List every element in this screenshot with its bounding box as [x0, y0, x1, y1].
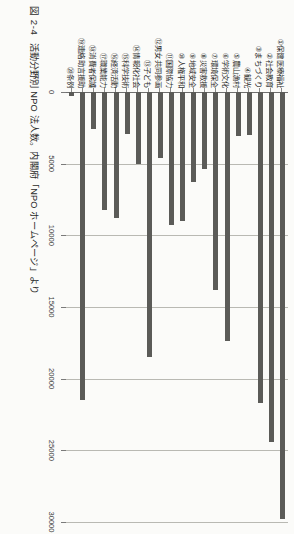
category-label: ⑩人権平和 — [177, 53, 184, 88]
category-label: ⑥学術文化 — [221, 53, 228, 88]
category-axis-labels: ①保健医療福祉②社会教育③まちづくり④観光⑤農山漁村⑥学術文化⑦環境保全⑧災害救… — [66, 6, 288, 90]
bar — [202, 92, 207, 169]
bar — [102, 92, 107, 210]
bar — [91, 92, 96, 129]
axis-tick-label: 0 — [47, 90, 56, 94]
category-label: ⑦環境保全 — [210, 53, 217, 88]
figure-caption-text: 活動分野別 NPO 法人数。内閣府「NPO ホームページ」より — [28, 43, 42, 295]
bar — [236, 92, 241, 136]
axis-tick — [61, 92, 66, 93]
category-label: ⑱消費者保護 — [88, 45, 95, 88]
value-axis-line — [66, 92, 288, 93]
axis-tick — [61, 235, 66, 236]
bar — [80, 92, 85, 400]
gridline — [66, 164, 288, 165]
category-label: ③まちづくり — [255, 46, 262, 88]
bar — [213, 92, 218, 290]
bar — [147, 92, 152, 357]
bar — [247, 92, 252, 135]
gridline — [66, 450, 288, 451]
gridline — [66, 307, 288, 308]
category-label: ⑬子ども — [144, 60, 151, 88]
bar-chart: ①保健医療福祉②社会教育③まちづくり④観光⑤農山漁村⑥学術文化⑦環境保全⑧災害救… — [46, 6, 290, 526]
gridline — [66, 235, 288, 236]
bar — [191, 92, 196, 182]
bar — [225, 92, 230, 341]
axis-tick-label: 15000 — [47, 296, 56, 317]
gridline — [66, 379, 288, 380]
bar — [69, 92, 74, 96]
category-label: ⑯経済活動 — [110, 53, 117, 89]
axis-tick-label: 30000 — [47, 511, 56, 532]
category-label: ⑤農山漁村 — [232, 53, 239, 88]
figure-caption: 図 2-4 活動分野別 NPO 法人数。内閣府「NPO ホームページ」より — [28, 6, 42, 526]
category-label: ⑫男女共同参画 — [155, 38, 162, 88]
axis-tick-label: 5000 — [47, 155, 56, 172]
bar — [158, 92, 163, 158]
category-label: ⑧災害救援 — [199, 53, 206, 88]
bar — [125, 92, 130, 134]
category-label: ⑭情報化社会 — [132, 45, 139, 88]
axis-tick — [61, 522, 66, 523]
axis-tick — [61, 450, 66, 451]
category-label: ①保健医療福祉 — [277, 39, 284, 88]
category-label: ⑨地域安全 — [188, 53, 195, 88]
category-label: ⑰職業能力 — [99, 53, 106, 89]
figure: ①保健医療福祉②社会教育③まちづくり④観光⑤農山漁村⑥学術文化⑦環境保全⑧災害救… — [0, 0, 294, 534]
figure-number: 図 2-4 — [28, 6, 42, 36]
bar — [180, 92, 185, 221]
bar — [169, 92, 174, 225]
category-label: ④観光 — [243, 67, 250, 88]
figure-rotation-container: ①保健医療福祉②社会教育③まちづくり④観光⑤農山漁村⑥学術文化⑦環境保全⑧災害救… — [0, 0, 294, 534]
axis-tick-label: 25000 — [47, 440, 56, 461]
category-label: ⑮科学技術 — [121, 53, 128, 89]
bar — [136, 92, 141, 164]
axis-tick — [61, 164, 66, 165]
category-label: ⑲連絡助言援助 — [77, 38, 84, 88]
axis-tick-label: 10000 — [47, 225, 56, 246]
plot-area: 050001000015000200002500030000 — [66, 92, 288, 522]
category-label: ⑳条例 — [66, 67, 73, 88]
axis-tick-label: 20000 — [47, 368, 56, 389]
bar — [114, 92, 119, 218]
axis-tick — [61, 379, 66, 380]
category-label: ②社会教育 — [266, 53, 273, 88]
bar — [269, 92, 274, 442]
category-label: ⑪国際協力 — [166, 53, 173, 89]
gridline — [66, 522, 288, 523]
bar — [258, 92, 263, 403]
axis-tick — [61, 307, 66, 308]
bar — [280, 92, 285, 519]
